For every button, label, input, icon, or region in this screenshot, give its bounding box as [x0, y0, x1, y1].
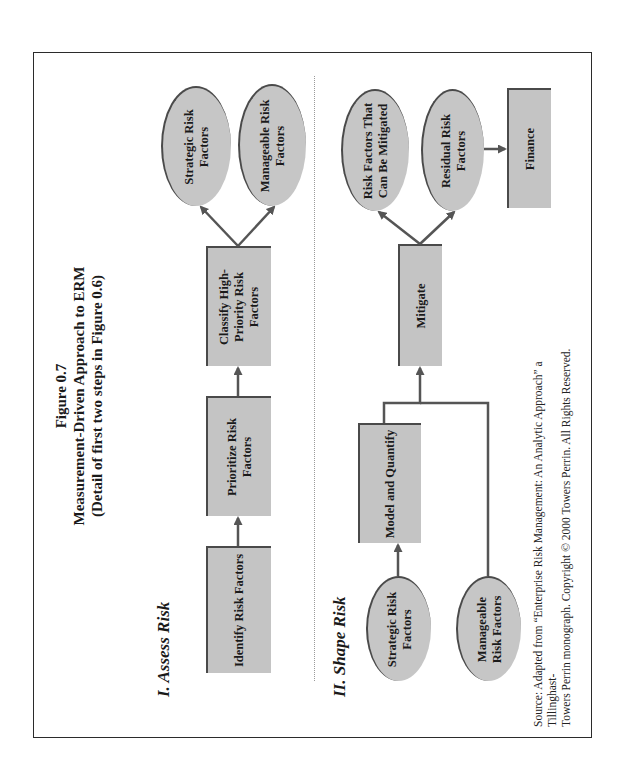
- arrow-classify-to-strategic: [201, 207, 238, 246]
- rotated-diagram-canvas: Figure 0.7 Measurement-Driven Approach t…: [34, 53, 593, 739]
- arrow-mitigate-to-residual: [420, 212, 454, 244]
- figure-frame: Figure 0.7 Measurement-Driven Approach t…: [33, 52, 592, 738]
- source-citation: Source: Adapted from “Enterprise Risk Ma…: [531, 327, 573, 727]
- connector-arrows: [34, 53, 593, 739]
- arrow-mitigate-to-mitigable: [379, 212, 420, 244]
- arrow-classify-to-manageable: [238, 207, 274, 246]
- source-line-1: Source: Adapted from “Enterprise Risk Ma…: [532, 361, 558, 727]
- arrow-model-to-mitigate: [384, 368, 420, 423]
- line-manageable-to-mitigate: [420, 403, 488, 576]
- source-line-2: Towers Perrin monograph. Copyright © 200…: [560, 349, 572, 727]
